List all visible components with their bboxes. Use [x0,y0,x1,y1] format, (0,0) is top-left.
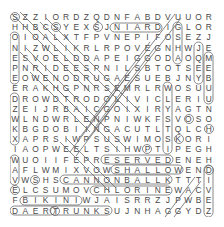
grid-cell[interactable]: R [81,73,91,83]
grid-cell[interactable]: T [153,63,163,73]
grid-cell[interactable]: L [112,94,122,104]
grid-cell[interactable]: R [30,63,40,73]
grid-cell[interactable]: S [183,83,193,93]
grid-cell[interactable]: E [10,83,20,93]
grid-cell[interactable]: L [122,63,132,73]
grid-cell[interactable]: P [10,63,20,73]
grid-cell[interactable]: E [173,94,183,104]
grid-cell[interactable]: E [142,43,152,53]
grid-cell[interactable]: E [153,155,163,165]
grid-cell[interactable]: N [51,73,61,83]
grid-cell[interactable]: F [153,114,163,124]
grid-cell[interactable]: T [142,124,152,134]
grid-cell[interactable]: U [51,185,61,195]
grid-cell[interactable]: L [51,43,61,53]
grid-cell[interactable]: X [81,22,91,32]
grid-cell[interactable]: R [61,114,71,124]
grid-cell[interactable]: A [102,195,112,205]
grid-cell[interactable]: O [10,32,20,42]
grid-cell[interactable]: O [163,165,173,175]
grid-cell[interactable]: U [132,124,142,134]
grid-cell[interactable]: W [41,165,51,175]
grid-cell[interactable]: I [71,195,81,205]
grid-cell[interactable]: L [142,165,152,175]
grid-cell[interactable]: E [204,195,214,205]
grid-cell[interactable]: H [142,206,152,216]
grid-cell[interactable]: Y [193,73,203,83]
grid-cell[interactable]: I [30,195,40,205]
grid-cell[interactable]: N [112,22,122,32]
grid-cell[interactable]: X [71,165,81,175]
grid-cell[interactable]: Z [30,43,40,53]
grid-cell[interactable]: P [81,134,91,144]
grid-cell[interactable]: I [193,94,203,104]
grid-cell[interactable]: I [61,165,71,175]
grid-cell[interactable]: L [20,114,30,124]
grid-cell[interactable]: E [183,165,193,175]
grid-cell[interactable]: M [122,83,132,93]
grid-cell[interactable]: E [183,32,193,42]
grid-cell[interactable]: S [163,134,173,144]
grid-cell[interactable]: O [92,165,102,175]
grid-cell[interactable]: O [193,12,203,22]
grid-cell[interactable]: A [173,104,183,114]
grid-cell[interactable]: I [112,63,122,73]
grid-cell[interactable]: O [51,12,61,22]
grid-cell[interactable]: K [10,124,20,134]
grid-cell[interactable]: B [163,73,173,83]
grid-cell[interactable]: S [92,134,102,144]
grid-cell[interactable]: W [163,83,173,93]
grid-cell[interactable]: S [51,134,61,144]
grid-cell[interactable]: I [142,32,152,42]
grid-cell[interactable]: G [183,104,193,114]
grid-cell[interactable]: E [122,155,132,165]
grid-cell[interactable]: E [30,206,40,216]
grid-cell[interactable]: V [10,175,20,185]
grid-cell[interactable]: W [173,185,183,195]
grid-cell[interactable]: Z [10,104,20,114]
grid-cell[interactable]: K [41,83,51,93]
grid-cell[interactable]: B [30,22,40,32]
grid-cell[interactable]: Z [204,206,214,216]
grid-cell[interactable]: U [71,206,81,216]
grid-cell[interactable]: U [183,12,193,22]
grid-cell[interactable]: W [132,144,142,154]
grid-cell[interactable]: S [51,22,61,32]
grid-cell[interactable]: S [20,53,30,63]
grid-cell[interactable]: B [61,104,71,114]
grid-cell[interactable]: R [61,206,71,216]
grid-cell[interactable]: N [153,185,163,195]
grid-cell[interactable]: S [112,155,122,165]
grid-cell[interactable]: R [183,94,193,104]
grid-cell[interactable]: J [41,104,51,114]
grid-cell[interactable]: W [10,114,20,124]
grid-cell[interactable]: A [30,83,40,93]
grid-cell[interactable]: R [132,185,142,195]
grid-cell[interactable]: D [153,22,163,32]
grid-cell[interactable]: W [132,114,142,124]
grid-cell[interactable]: A [112,124,122,134]
grid-cell[interactable]: R [61,12,71,22]
grid-cell[interactable]: H [20,22,30,32]
grid-cell[interactable]: D [10,94,20,104]
grid-cell[interactable]: I [112,144,122,154]
grid-cell[interactable]: T [193,175,203,185]
grid-cell[interactable]: A [20,144,30,154]
grid-cell[interactable]: K [92,206,102,216]
grid-cell[interactable]: X [10,134,20,144]
grid-cell[interactable]: C [122,124,132,134]
grid-cell[interactable]: K [41,195,51,205]
grid-cell[interactable]: L [51,32,61,42]
grid-cell[interactable]: M [204,53,214,63]
grid-cell[interactable]: I [122,104,132,114]
grid-cell[interactable]: I [20,32,30,42]
grid-cell[interactable]: P [81,155,91,165]
grid-cell[interactable]: N [204,104,214,114]
grid-cell[interactable]: I [41,12,51,22]
grid-cell[interactable]: E [71,63,81,73]
grid-cell[interactable]: E [71,144,81,154]
grid-cell[interactable]: A [71,175,81,185]
grid-cell[interactable]: E [122,73,132,83]
grid-cell[interactable]: E [204,63,214,73]
grid-cell[interactable]: E [61,63,71,73]
